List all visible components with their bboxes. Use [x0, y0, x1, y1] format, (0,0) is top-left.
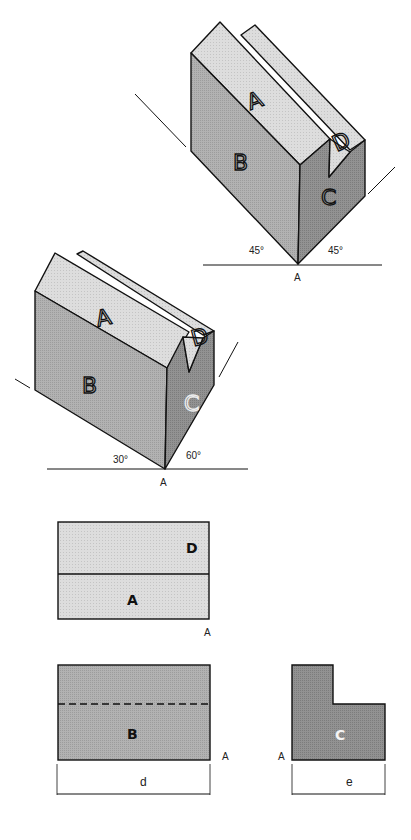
dimension-d: d — [140, 775, 147, 789]
guide-line-left — [135, 94, 186, 147]
label-a: A — [127, 592, 138, 608]
dimension-e: e — [346, 775, 353, 789]
angle-left: 30° — [113, 454, 128, 465]
letter-c: C — [321, 185, 336, 210]
point-a: A — [160, 477, 167, 488]
point-a: A — [204, 627, 211, 638]
guide-line-right — [219, 342, 238, 377]
guide-line-left — [15, 379, 30, 388]
point-a: A — [278, 751, 285, 762]
letter-c: C — [184, 391, 199, 416]
orthographic-diagram: A B C D 45° 45° A A B C D 30° 60° A D A … — [0, 0, 411, 840]
isometric-block-45 — [135, 22, 395, 265]
letter-b: B — [233, 150, 248, 175]
point-a: A — [222, 751, 229, 762]
angle-left: 45° — [249, 245, 264, 256]
guide-line-right — [368, 167, 395, 194]
angle-right: 60° — [186, 450, 201, 461]
isometric-block-30-60 — [15, 251, 248, 469]
label-d: D — [186, 540, 198, 556]
point-a: A — [294, 272, 301, 283]
label-c: C — [335, 727, 345, 743]
angle-right: 45° — [328, 245, 343, 256]
label-b: B — [127, 726, 138, 742]
letter-b: B — [82, 373, 97, 398]
